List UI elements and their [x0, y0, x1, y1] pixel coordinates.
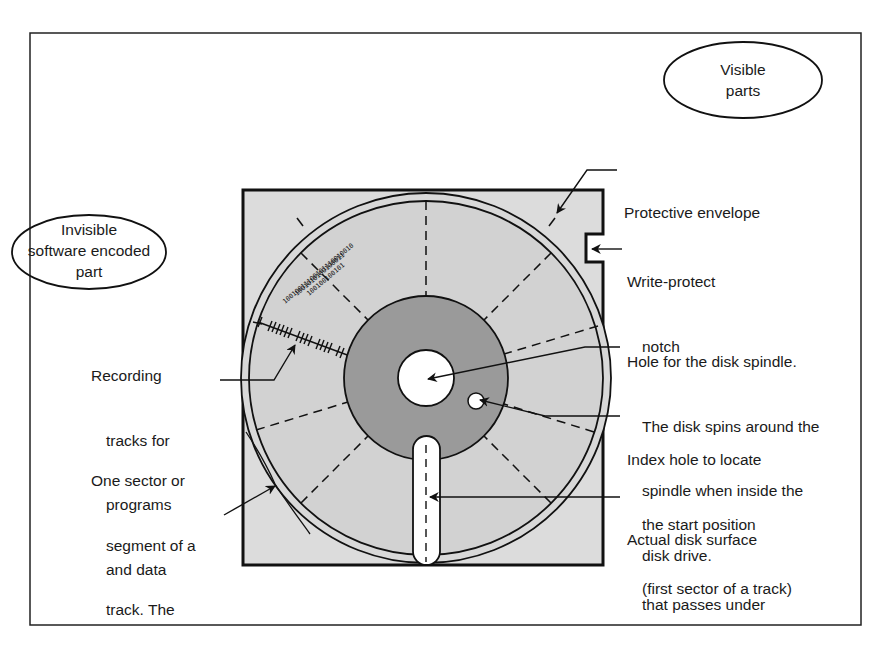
label-line: Recording — [91, 365, 171, 387]
label-line: Index hole to locate — [627, 449, 792, 471]
label-line: track. The — [91, 599, 228, 621]
oval-line: part — [14, 261, 164, 282]
invisible-part-label: Invisible software encoded part — [14, 219, 164, 282]
oval-line: software encoded — [14, 240, 164, 261]
oval-line: Visible — [683, 59, 803, 80]
label-line: that passes under — [627, 594, 765, 616]
spindle-hole — [398, 350, 454, 406]
label-line: Write-protect — [627, 271, 715, 293]
label-line: Protective envelope — [624, 202, 760, 224]
label-sector: One sector or segment of a track. The nu… — [91, 427, 228, 653]
oval-line: parts — [683, 80, 803, 101]
label-line: One sector or — [91, 470, 228, 492]
visible-parts-label: Visible parts — [683, 59, 803, 101]
label-line: Hole for the disk spindle. — [627, 351, 820, 373]
label-line: Actual disk surface — [627, 529, 765, 551]
label-line: segment of a — [91, 535, 228, 557]
oval-line: Invisible — [14, 219, 164, 240]
label-disk-surface: Actual disk surface that passes under th… — [627, 486, 765, 653]
